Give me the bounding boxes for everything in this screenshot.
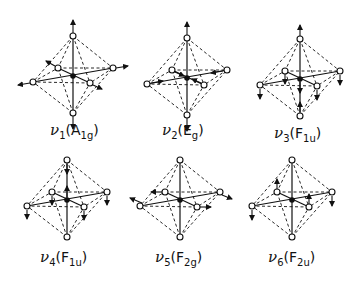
ligand-atom (64, 234, 70, 240)
nu-symbol: ν (274, 124, 283, 142)
ligand-atom (289, 234, 295, 240)
ligand-atom (337, 68, 343, 74)
central-atom (177, 197, 183, 203)
ligand-atom (184, 112, 190, 118)
ligand-atom (297, 113, 303, 119)
central-atom (297, 76, 303, 82)
paren: ) (310, 249, 315, 265)
ligand-atom (306, 204, 312, 210)
nu-symbol: ν (162, 121, 171, 139)
mode-diagram-v5 (130, 157, 232, 240)
paren: ) (82, 249, 87, 265)
mode-label-v1: ν1(A1g) (50, 121, 99, 141)
ligand-atom (177, 234, 183, 240)
displacement-arrow-icon (175, 72, 184, 76)
mode-label-v6: ν6(F2u) (268, 248, 315, 268)
symmetry-symbol: F (61, 249, 69, 265)
symmetry-subscript: 1u (303, 133, 316, 144)
symmetry-subscript: 2g (184, 257, 197, 268)
nu-symbol: ν (268, 248, 277, 266)
ligand-atom (70, 33, 76, 39)
displacement-arrow-icon (18, 83, 30, 85)
ligand-atom (162, 189, 168, 195)
ligand-atom (70, 110, 76, 116)
ligand-atom (184, 35, 190, 41)
symmetry-subscript: 1g (81, 130, 94, 141)
nu-symbol: ν (155, 248, 164, 266)
mode-label-v5: ν5(F2g) (155, 248, 202, 268)
ligand-atom (194, 204, 200, 210)
ligand-atom (169, 67, 175, 73)
ligand-atom (49, 189, 55, 195)
ligand-atom (201, 82, 207, 88)
mode-label-v2: ν2(Eg) (162, 121, 204, 141)
mode-diagram-v6 (249, 157, 335, 240)
ligand-atom (87, 80, 93, 86)
ligand-atom (257, 82, 263, 88)
displacement-arrow-icon (93, 85, 102, 89)
ligand-atom (249, 203, 255, 209)
symmetry-symbol: F (295, 125, 303, 141)
paren: ) (316, 125, 321, 141)
symmetry-symbol: E (183, 122, 192, 138)
ligand-atom (289, 157, 295, 163)
ligand-atom (314, 83, 320, 89)
paren: ) (198, 122, 203, 138)
displacement-arrow-icon (192, 79, 201, 83)
ligand-atom (110, 65, 116, 71)
nu-symbol: ν (40, 248, 49, 266)
ligand-atom (274, 189, 280, 195)
nu-symbol: ν (50, 121, 59, 139)
displacement-arrow-icon (222, 195, 232, 199)
ligand-atom (104, 189, 110, 195)
ligand-atom (144, 81, 150, 87)
central-atom (70, 73, 76, 79)
ligand-atom (224, 67, 230, 73)
ligand-atom (282, 68, 288, 74)
ligand-atom (24, 203, 30, 209)
symmetry-symbol: F (176, 249, 184, 265)
ligand-atom (81, 204, 87, 210)
mode-diagram-v3 (257, 25, 343, 119)
paren: ) (93, 122, 98, 138)
central-atom (184, 75, 190, 81)
central-atom (289, 197, 295, 203)
mode-diagram-v2 (144, 22, 230, 131)
ligand-atom (64, 157, 70, 163)
mode-label-v3: ν3(F1u) (274, 124, 321, 144)
ligand-atom (297, 36, 303, 42)
symmetry-symbol: A (71, 122, 81, 138)
symmetry-subscript: 1u (69, 257, 82, 268)
ligand-atom (30, 79, 36, 85)
mode-label-v4: ν4(F1u) (40, 248, 87, 268)
ligand-atom (137, 203, 143, 209)
mode-diagram-v4 (24, 157, 110, 240)
paren: ) (197, 249, 202, 265)
ligand-atom (177, 157, 183, 163)
mode-diagram-v1 (18, 20, 128, 129)
symmetry-subscript: 2u (297, 257, 310, 268)
ligand-atom (329, 189, 335, 195)
displacement-arrow-icon (116, 66, 128, 68)
ligand-atom (217, 189, 223, 195)
displacement-arrow-icon (130, 198, 142, 203)
ligand-atom (55, 65, 61, 71)
central-atom (64, 197, 70, 203)
symmetry-symbol: F (289, 249, 297, 265)
